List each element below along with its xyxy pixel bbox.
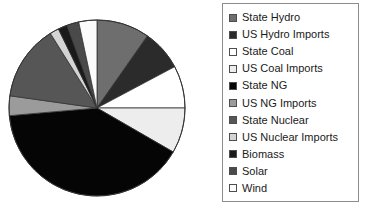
legend-item-us-nuclear-imports[interactable]: US Nuclear Imports bbox=[229, 129, 358, 146]
legend-item-label: Wind bbox=[242, 183, 267, 194]
legend-swatch-icon bbox=[229, 184, 237, 192]
legend-item-state-nuclear[interactable]: State Nuclear bbox=[229, 112, 358, 129]
legend-swatch-icon bbox=[229, 150, 237, 158]
legend-item-us-hydro-imports[interactable]: US Hydro Imports bbox=[229, 26, 358, 43]
legend-swatch-icon bbox=[229, 48, 237, 56]
legend-swatch-icon bbox=[229, 133, 237, 141]
legend-swatch-icon bbox=[229, 82, 237, 90]
legend-item-label: US Hydro Imports bbox=[242, 29, 329, 40]
legend-item-state-ng[interactable]: State NG bbox=[229, 77, 358, 94]
legend-item-us-ng-imports[interactable]: US NG Imports bbox=[229, 94, 358, 111]
legend-item-label: State Nuclear bbox=[242, 115, 309, 126]
legend-item-label: Solar bbox=[242, 166, 268, 177]
legend-item-state-coal[interactable]: State Coal bbox=[229, 43, 358, 60]
legend-item-wind[interactable]: Wind bbox=[229, 180, 358, 197]
legend-swatch-icon bbox=[229, 31, 237, 39]
chart-page: State Hydro US Hydro Imports State Coal … bbox=[0, 0, 366, 218]
legend-swatch-icon bbox=[229, 116, 237, 124]
legend-item-label: US NG Imports bbox=[242, 98, 317, 109]
pie-chart bbox=[0, 0, 220, 218]
legend-item-solar[interactable]: Solar bbox=[229, 163, 358, 180]
legend-item-state-hydro[interactable]: State Hydro bbox=[229, 9, 358, 26]
pie-slice-group bbox=[9, 20, 185, 196]
legend-swatch-icon bbox=[229, 99, 237, 107]
legend-item-label: State Hydro bbox=[242, 12, 300, 23]
legend-item-label: State Coal bbox=[242, 46, 293, 57]
chart-legend: State Hydro US Hydro Imports State Coal … bbox=[222, 3, 359, 202]
legend-item-label: US Nuclear Imports bbox=[242, 132, 338, 143]
legend-item-us-coal-imports[interactable]: US Coal Imports bbox=[229, 60, 358, 77]
legend-item-biomass[interactable]: Biomass bbox=[229, 146, 358, 163]
legend-swatch-icon bbox=[229, 167, 237, 175]
legend-item-label: State NG bbox=[242, 80, 287, 91]
pie-chart-area bbox=[0, 0, 220, 218]
legend-item-label: US Coal Imports bbox=[242, 63, 323, 74]
legend-item-label: Biomass bbox=[242, 149, 284, 160]
legend-swatch-icon bbox=[229, 14, 237, 22]
legend-swatch-icon bbox=[229, 65, 237, 73]
